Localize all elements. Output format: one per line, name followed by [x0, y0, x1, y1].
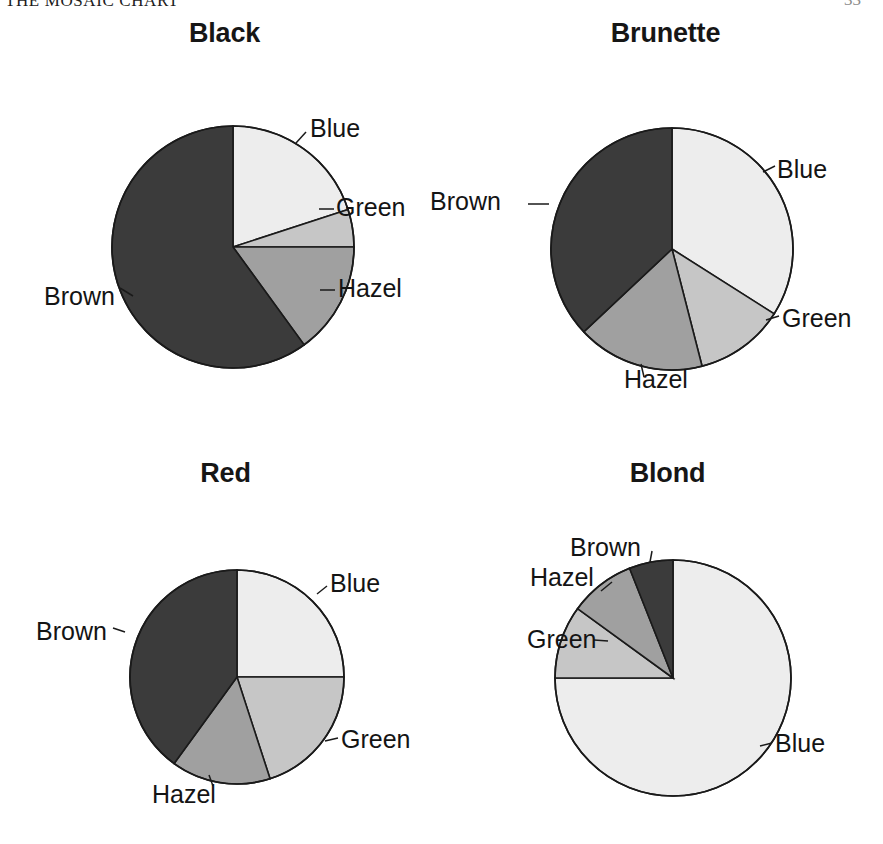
leader-line-green — [325, 738, 338, 741]
pie-panel-black: Black BlueGreenHazelBrown — [0, 0, 441, 422]
pie-chart-red: BlueGreenHazelBrown — [0, 422, 441, 844]
slice-label-brown: Brown — [36, 617, 107, 645]
pie-chart-brunette: BlueGreenHazelBrown — [441, 0, 882, 422]
leader-line-brown — [650, 551, 652, 562]
slice-label-hazel: Hazel — [624, 365, 688, 393]
pie-slice-blue — [237, 570, 344, 677]
slice-label-green: Green — [527, 625, 596, 653]
slice-label-hazel: Hazel — [530, 563, 594, 591]
pie-chart-blond: BlueGreenHazelBrown — [441, 422, 882, 844]
slice-label-hazel: Hazel — [152, 780, 216, 808]
slice-label-blue: Blue — [330, 569, 380, 597]
slice-label-brown: Brown — [430, 187, 501, 215]
leader-line-blue — [296, 132, 306, 143]
slice-label-green: Green — [341, 725, 410, 753]
slice-label-blue: Blue — [310, 114, 360, 142]
pie-panel-blond: Blond BlueGreenHazelBrown — [441, 422, 882, 844]
leader-line-blue — [763, 166, 775, 172]
pie-chart-black: BlueGreenHazelBrown — [0, 0, 441, 422]
leader-line-brown — [113, 628, 125, 632]
slice-label-brown: Brown — [570, 533, 641, 561]
slice-label-hazel: Hazel — [338, 274, 402, 302]
pie-panel-red: Red BlueGreenHazelBrown — [0, 422, 441, 844]
leader-line-blue — [317, 586, 327, 594]
slice-label-blue: Blue — [777, 155, 827, 183]
slice-label-green: Green — [336, 193, 405, 221]
slice-label-brown: Brown — [44, 282, 115, 310]
slice-label-blue: Blue — [775, 729, 825, 757]
pie-panel-brunette: Brunette BlueGreenHazelBrown — [441, 0, 882, 422]
slice-label-green: Green — [782, 304, 851, 332]
